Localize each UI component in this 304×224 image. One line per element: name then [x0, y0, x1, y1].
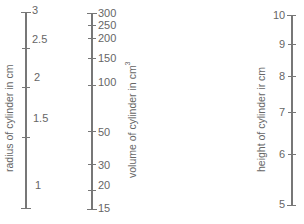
height-label-10: 10 [273, 10, 285, 21]
volume-axis-line [91, 13, 93, 210]
volume-tick [87, 13, 97, 14]
height-tick [287, 205, 296, 206]
volume-label-300: 300 [98, 8, 116, 19]
radius-label-1: 1 [35, 180, 41, 191]
height-label-6: 6 [279, 149, 285, 160]
volume-label-50: 50 [98, 127, 110, 138]
volume-label-150: 150 [98, 53, 116, 64]
height-tick [288, 76, 296, 77]
radius-label-1-5: 1.5 [33, 113, 48, 124]
volume-tick [88, 131, 96, 132]
radius-axis-line [25, 12, 27, 209]
radius-tick [21, 12, 31, 13]
volume-label-20: 20 [98, 180, 110, 191]
height-title: height of cylinder ir cm [255, 67, 267, 172]
height-label-9: 9 [279, 39, 285, 50]
radius-label-3: 3 [32, 5, 38, 16]
radius-title: radius of cylinder in cm [3, 65, 15, 172]
height-tick [288, 154, 296, 155]
radius-tick [22, 48, 30, 49]
radius-tick [21, 208, 31, 209]
volume-tick [88, 190, 96, 191]
height-tick [288, 112, 296, 113]
radius-tick [22, 137, 30, 138]
height-label-5: 5 [279, 199, 285, 210]
radius-tick [22, 87, 30, 88]
volume-title-sup: 3 [124, 61, 131, 65]
height-tick [288, 44, 296, 45]
volume-label-15: 15 [98, 203, 110, 214]
height-tick [287, 15, 296, 16]
volume-title-text: volume of cylinder in cm [126, 65, 138, 178]
volume-tick [88, 25, 96, 26]
volume-tick [88, 85, 96, 86]
radius-label-2-5: 2.5 [32, 34, 47, 45]
height-label-8: 8 [279, 71, 285, 82]
volume-label-200: 200 [98, 33, 116, 44]
volume-tick [88, 58, 96, 59]
volume-tick [88, 38, 96, 39]
height-label-7: 7 [279, 107, 285, 118]
volume-title: volume of cylinder in cm3 [126, 61, 138, 178]
volume-label-250: 250 [98, 20, 116, 31]
radius-label-2: 2 [34, 72, 40, 83]
volume-label-100: 100 [98, 77, 116, 88]
volume-label-30: 30 [98, 160, 110, 171]
volume-tick [87, 209, 97, 210]
volume-tick [88, 164, 96, 165]
